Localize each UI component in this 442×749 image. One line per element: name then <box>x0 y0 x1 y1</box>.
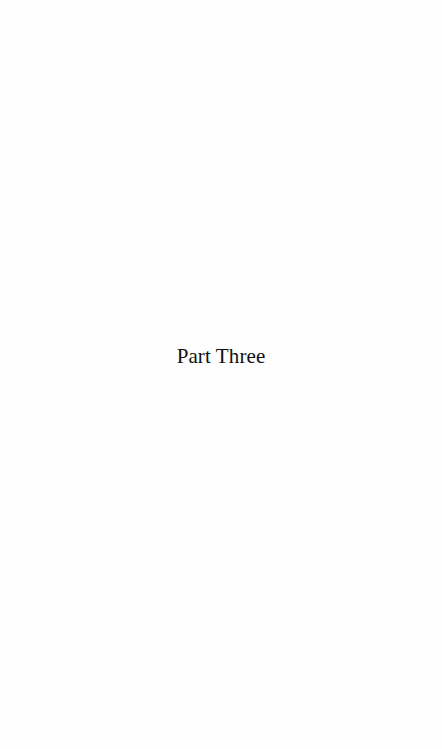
part-heading: Part Three <box>0 343 442 369</box>
book-page: Part Three <box>0 0 442 749</box>
